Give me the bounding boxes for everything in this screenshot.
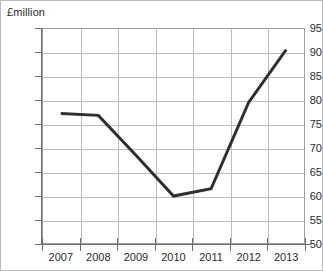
gridline-horizontal (43, 197, 304, 198)
plot-area (42, 28, 305, 244)
gridline-vertical (156, 29, 157, 243)
x-axis-tick (117, 238, 118, 251)
y-axis-tick (35, 100, 42, 101)
y-axis-tick (35, 196, 42, 197)
y-axis-tick-label: 85 (290, 70, 322, 82)
y-axis-tick (35, 28, 42, 29)
gridline-horizontal (43, 149, 304, 150)
gridline-horizontal (43, 221, 304, 222)
y-axis-tick-label: 70 (290, 142, 322, 154)
y-axis-tick (35, 148, 42, 149)
y-axis-tick-label: 90 (290, 46, 322, 58)
x-axis-tick (192, 238, 193, 251)
y-axis-tick-label: 50 (290, 238, 322, 250)
y-axis-tick-label: 95 (290, 22, 322, 34)
chart-figure: £million 50556065707580859095 2007200820… (0, 0, 323, 271)
gridline-horizontal (43, 77, 304, 78)
gridline-horizontal (43, 125, 304, 126)
y-axis-tick (35, 76, 42, 77)
x-axis-line (35, 244, 311, 245)
y-axis-tick (35, 52, 42, 53)
x-axis-tick (305, 238, 306, 251)
gridline-vertical (268, 29, 269, 243)
y-axis-tick (35, 220, 42, 221)
x-axis-tick (155, 238, 156, 251)
y-axis-unit-label: £million (7, 6, 45, 18)
y-axis-tick (35, 172, 42, 173)
y-axis-line (41, 28, 42, 245)
gridline-vertical (231, 29, 232, 243)
gridline-horizontal (43, 173, 304, 174)
y-axis-tick-label: 75 (290, 118, 322, 130)
gridline-vertical (81, 29, 82, 243)
y-axis-tick-label: 80 (290, 94, 322, 106)
gridline-horizontal (43, 53, 304, 54)
x-axis-tick (267, 238, 268, 251)
y-axis-tick (35, 244, 42, 245)
y-axis-tick-label: 55 (290, 214, 322, 226)
x-axis-tick (80, 238, 81, 251)
x-axis-tick-label: 2013 (264, 251, 308, 263)
x-axis-tick (230, 238, 231, 251)
gridline-vertical (193, 29, 194, 243)
y-axis-tick-label: 65 (290, 166, 322, 178)
y-axis-tick (35, 124, 42, 125)
x-axis-tick (42, 238, 43, 251)
gridline-vertical (118, 29, 119, 243)
y-axis-tick-label: 60 (290, 190, 322, 202)
gridline-horizontal (43, 101, 304, 102)
